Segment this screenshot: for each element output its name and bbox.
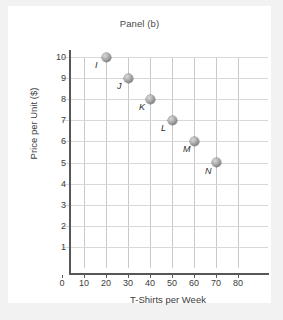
x-tick-label: 20 (94, 278, 118, 288)
data-point-label: L (161, 123, 166, 133)
data-point (146, 95, 155, 104)
x-tick-label: 50 (160, 278, 184, 288)
x-axis-tick (172, 275, 173, 278)
plot-area (62, 51, 268, 268)
gridline-horizontal (62, 226, 268, 227)
gridline-horizontal (62, 99, 268, 100)
y-tick-label: 1 (44, 242, 66, 252)
gridline-horizontal (62, 184, 268, 185)
x-tick-label: 70 (204, 278, 228, 288)
gridline-horizontal (62, 247, 268, 248)
x-axis-tick (194, 275, 195, 278)
x-axis-tick (216, 275, 217, 278)
data-point-label: K (139, 102, 145, 112)
y-axis-spine (69, 50, 71, 275)
x-tick-label: 0 (50, 278, 74, 288)
y-tick-label: 3 (44, 200, 66, 210)
x-tick-label: 60 (182, 278, 206, 288)
gridline-horizontal (62, 141, 268, 142)
y-tick-label: 6 (44, 136, 66, 146)
x-axis-tick (84, 275, 85, 278)
y-tick-label: 5 (44, 158, 66, 168)
data-point (168, 116, 177, 125)
x-tick-label: 40 (138, 278, 162, 288)
data-point (102, 53, 111, 62)
data-point-label: J (117, 81, 122, 91)
y-tick-label: 8 (44, 94, 66, 104)
data-point-label: N (205, 166, 212, 176)
x-axis-tick (62, 275, 63, 278)
x-tick-label: 30 (116, 278, 140, 288)
gridline-horizontal (62, 78, 268, 79)
y-tick-label: 10 (44, 52, 66, 62)
x-axis-tick (106, 275, 107, 278)
gridline-horizontal (62, 57, 268, 58)
data-point-label: I (95, 60, 98, 70)
y-axis-title: Price per Unit ($) (28, 49, 39, 199)
gridline-horizontal (62, 120, 268, 121)
y-tick-label: 4 (44, 179, 66, 189)
y-tick-label: 7 (44, 115, 66, 125)
data-point-label: M (183, 144, 191, 154)
figure-card: Panel (b) 12345678910 01020304050607080 … (8, 6, 271, 303)
gridline-horizontal (62, 163, 268, 164)
x-tick-label: 80 (226, 278, 250, 288)
gridline-horizontal (62, 205, 268, 206)
y-axis-tick-labels: 12345678910 (38, 6, 66, 320)
x-axis-tick (150, 275, 151, 278)
x-tick-label: 10 (72, 278, 96, 288)
data-point (124, 74, 133, 83)
x-axis-tick (238, 275, 239, 278)
x-axis-tick (128, 275, 129, 278)
x-axis-spine (69, 273, 269, 275)
figure-frame: Panel (b) 12345678910 01020304050607080 … (0, 0, 283, 320)
x-axis-title: T-Shirts per Week (63, 294, 273, 305)
y-tick-label: 2 (44, 221, 66, 231)
y-tick-label: 9 (44, 73, 66, 83)
data-point (212, 158, 221, 167)
